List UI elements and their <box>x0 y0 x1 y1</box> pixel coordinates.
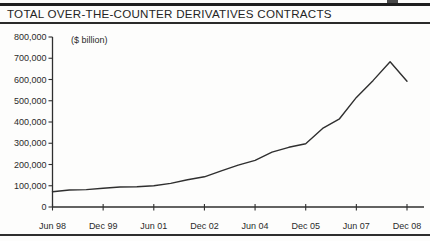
x-axis-tick-label: Dec 08 <box>393 221 422 231</box>
x-axis-tick-label: Jun 01 <box>140 221 167 231</box>
unit-label: ($ billion) <box>71 35 108 45</box>
x-axis-tick-label: Dec 02 <box>190 221 219 231</box>
x-axis-tick-label: Jun 04 <box>242 221 269 231</box>
x-axis-tick-label: Dec 99 <box>89 221 118 231</box>
y-axis-tick-label: 200,000 <box>14 160 47 170</box>
y-axis-tick-label: 400,000 <box>14 117 47 127</box>
y-axis-tick-label: 600,000 <box>14 75 47 85</box>
line-chart: 0100,000200,000300,000400,000500,000600,… <box>0 0 430 241</box>
x-axis-tick-label: Jun 98 <box>39 221 66 231</box>
derivatives-data-line <box>53 62 408 192</box>
y-axis-tick-label: 300,000 <box>14 138 47 148</box>
y-axis-tick-label: 500,000 <box>14 96 47 106</box>
y-axis-tick-label: 0 <box>41 202 46 212</box>
y-axis-tick-label: 700,000 <box>14 53 47 63</box>
x-axis-tick-label: Jun 07 <box>343 221 370 231</box>
y-axis-tick-label: 100,000 <box>14 181 47 191</box>
figure-panel: TOTAL OVER-THE-COUNTER DERIVATIVES CONTR… <box>0 0 430 241</box>
bottom-rule <box>0 234 430 237</box>
y-axis-tick-label: 800,000 <box>14 32 47 42</box>
x-axis-tick-label: Dec 05 <box>291 221 320 231</box>
